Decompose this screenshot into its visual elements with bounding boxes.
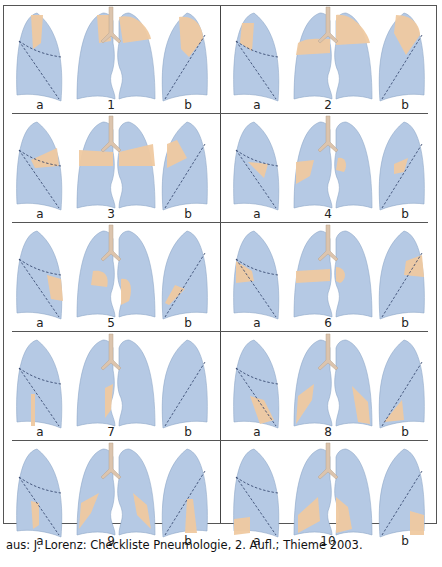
label-a: a: [25, 98, 55, 112]
lateral-view-a: [234, 340, 279, 428]
frontal-view: [294, 334, 372, 426]
lateral-view-a: [234, 449, 279, 537]
lateral-view-a: [17, 231, 63, 319]
lateral-view-a: [17, 122, 62, 210]
label-b: b: [390, 534, 420, 548]
panel-segment-5: a5b: [3, 223, 219, 331]
segment-number: 7: [96, 425, 126, 439]
label-a: a: [25, 207, 55, 221]
panel-segment-7: a7b: [3, 332, 219, 440]
frontal-view: [77, 7, 155, 99]
lateral-view-b: [379, 340, 424, 428]
lateral-view-b: [162, 122, 207, 210]
label-b: b: [390, 207, 420, 221]
label-b: b: [390, 98, 420, 112]
lateral-view-b: [379, 231, 424, 319]
segment-number: 4: [313, 207, 343, 221]
lateral-view-b: [162, 449, 207, 537]
label-a: a: [242, 207, 272, 221]
frontal-view: [294, 116, 372, 208]
lateral-view-b: [162, 13, 207, 101]
lateral-view-a: [234, 231, 279, 319]
lateral-view-a: [234, 122, 279, 210]
label-a: a: [242, 98, 272, 112]
segment-number: 2: [313, 98, 343, 112]
segment-number: 3: [96, 207, 126, 221]
panel-segment-9: a9b: [3, 441, 219, 549]
lateral-view-b: [162, 231, 207, 319]
panel-segment-3: a3b: [3, 114, 219, 222]
panel-segment-8: a8b: [220, 332, 436, 440]
lateral-view-a: [17, 13, 62, 101]
frontal-view: [77, 225, 155, 317]
label-a: a: [25, 425, 55, 439]
label-b: b: [173, 98, 203, 112]
lateral-view-b: [379, 13, 424, 101]
frontal-view: [77, 116, 155, 208]
lateral-view-a: [17, 340, 62, 428]
segment-number: 8: [313, 425, 343, 439]
figure-caption: aus: J. Lorenz: Checkliste Pneumologie, …: [6, 538, 363, 552]
label-b: b: [390, 425, 420, 439]
lateral-view-a: [234, 13, 279, 101]
panel-segment-6: a6b: [220, 223, 436, 331]
label-a: a: [242, 425, 272, 439]
label-b: b: [173, 207, 203, 221]
panel-segment-10: a10b: [220, 441, 436, 549]
label-b: b: [173, 425, 203, 439]
label-a: a: [242, 316, 272, 330]
frontal-view: [294, 7, 372, 99]
panel-segment-4: a4b: [220, 114, 436, 222]
segment-number: 6: [313, 316, 343, 330]
lateral-view-b: [379, 122, 424, 210]
frontal-view: [77, 334, 155, 426]
lateral-view-b: [162, 340, 207, 428]
frontal-view: [77, 443, 155, 535]
panel-segment-2: a2b: [220, 5, 436, 113]
label-b: b: [390, 316, 420, 330]
frontal-view: [294, 443, 372, 535]
segment-number: 5: [96, 316, 126, 330]
lateral-view-b: [379, 449, 424, 537]
frontal-view: [294, 225, 372, 317]
label-a: a: [25, 316, 55, 330]
lateral-view-a: [17, 449, 62, 537]
segment-number: 1: [96, 98, 126, 112]
panel-segment-1: a1b: [3, 5, 219, 113]
label-b: b: [173, 316, 203, 330]
